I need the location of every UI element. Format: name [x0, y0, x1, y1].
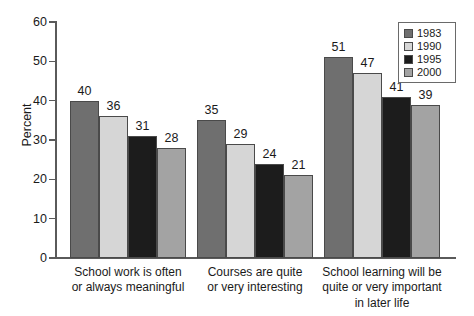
legend-item-label: 1983 — [417, 28, 441, 39]
y-axis-tick — [49, 61, 56, 63]
bar — [324, 57, 353, 258]
legend-swatch-icon — [404, 68, 413, 77]
legend-item[interactable]: 1990 — [404, 40, 451, 52]
bar-value-label: 21 — [278, 159, 319, 172]
y-axis-tick — [49, 179, 56, 181]
legend-item[interactable]: 2000 — [404, 66, 451, 78]
bar — [255, 164, 284, 258]
bar-value-label: 51 — [318, 41, 359, 54]
bar — [197, 120, 226, 258]
bar-value-label: 29 — [220, 128, 261, 141]
y-axis-tick — [49, 218, 56, 220]
bar-value-label: 31 — [122, 120, 163, 133]
legend: 1983199019952000 — [398, 22, 456, 83]
bar — [353, 73, 382, 258]
y-axis-tick — [49, 21, 56, 23]
bar — [226, 144, 255, 258]
bar — [411, 105, 440, 258]
legend-swatch-icon — [404, 55, 413, 64]
bar-value-label: 40 — [64, 85, 105, 98]
plot-area: 403631283529242151474139 — [56, 22, 455, 258]
legend-swatch-icon — [404, 42, 413, 51]
y-axis-tick-label: 20 — [19, 173, 47, 186]
legend-item-label: 1990 — [417, 41, 441, 52]
bar — [284, 175, 313, 258]
legend-item[interactable]: 1995 — [404, 53, 451, 65]
bar-value-label: 47 — [347, 57, 388, 70]
y-axis-tick — [49, 257, 56, 259]
bar-chart: 6050403020100 Percent 403631283529242151… — [0, 0, 474, 316]
y-axis-tick — [49, 139, 56, 141]
legend-swatch-icon — [404, 29, 413, 38]
bar — [382, 97, 411, 258]
legend-item-label: 2000 — [417, 67, 441, 78]
bar-value-label: 39 — [405, 89, 446, 102]
bar — [128, 136, 157, 258]
y-axis-title: Percent — [20, 90, 34, 160]
bar-value-label: 24 — [249, 148, 290, 161]
y-axis-tick-label: 0 — [19, 252, 47, 265]
y-axis-tick-label: 60 — [19, 16, 47, 29]
legend-item-label: 1995 — [417, 54, 441, 65]
y-axis-tick-label: 10 — [19, 213, 47, 226]
legend-item[interactable]: 1983 — [404, 27, 451, 39]
bar — [157, 148, 186, 258]
bar-value-label: 28 — [151, 132, 192, 145]
bar — [99, 116, 128, 258]
y-axis-tick-label: 50 — [19, 55, 47, 68]
bar-value-label: 36 — [93, 100, 134, 113]
bar — [70, 101, 99, 258]
x-axis-category-label: School learning will be quite or very im… — [307, 265, 457, 311]
y-axis-tick — [49, 100, 56, 102]
bar-value-label: 35 — [191, 104, 232, 117]
